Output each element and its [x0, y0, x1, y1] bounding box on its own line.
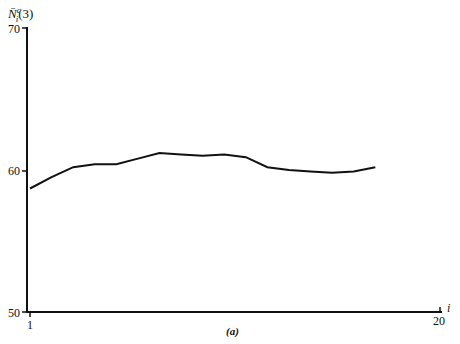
x-axis-label: i: [447, 302, 450, 314]
x-tick-label-1: 1: [27, 319, 33, 331]
y-tick-label-50: 50: [8, 307, 20, 319]
y-tick-label-60: 60: [8, 165, 20, 177]
x-tick-label-20: 20: [433, 315, 445, 327]
series-line: [30, 153, 375, 189]
figure-caption: (a): [226, 326, 239, 337]
y-tick-label-70: 70: [8, 23, 20, 35]
chart-canvas: [0, 0, 460, 344]
